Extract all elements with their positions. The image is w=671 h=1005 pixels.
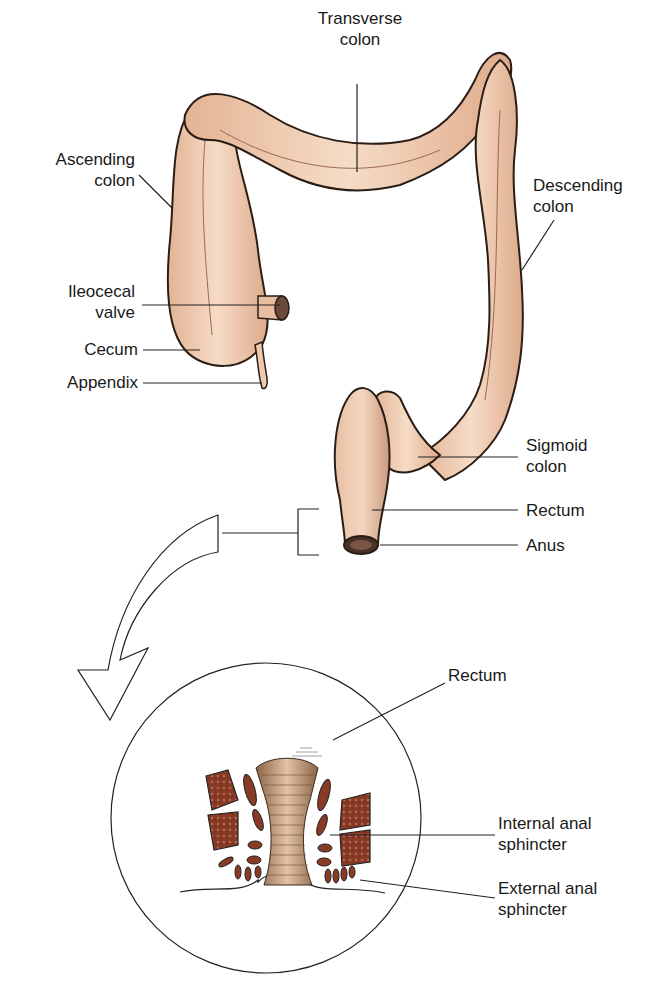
label-descending-colon: Descending colon: [533, 175, 623, 217]
label-sigmoid-colon: Sigmoid colon: [526, 435, 587, 477]
label-ileocecal-valve: Ileocecal valve: [20, 281, 135, 323]
label-anus: Anus: [526, 535, 565, 556]
rectum: [335, 388, 390, 554]
appendix: [255, 342, 267, 388]
label-transverse-colon: Transverse colon: [300, 8, 420, 50]
inset-label-external-anal-sphincter: External anal sphincter: [498, 878, 597, 920]
label-rectum: Rectum: [526, 500, 585, 521]
inset-label-rectum: Rectum: [448, 665, 507, 686]
ileocecal-valve: [258, 296, 289, 320]
label-cecum: Cecum: [20, 339, 138, 360]
inset-circle: [111, 663, 421, 973]
label-appendix: Appendix: [20, 372, 138, 393]
inset-label-internal-anal-sphincter: Internal anal sphincter: [498, 813, 592, 855]
label-ascending-colon: Ascending colon: [20, 149, 135, 191]
